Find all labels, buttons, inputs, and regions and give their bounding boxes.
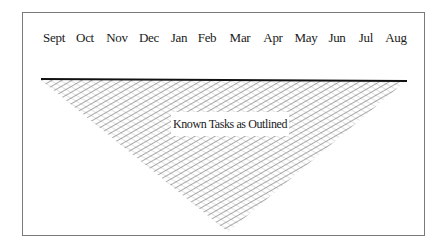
triangle-label-box: Known Tasks as Outlined: [171, 112, 289, 136]
triangle-label: Known Tasks as Outlined: [173, 117, 287, 132]
